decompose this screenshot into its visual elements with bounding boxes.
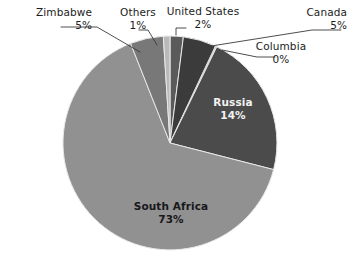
pie-label-zimbabwe: Zimbabwe 5% [14,6,92,31]
pie-label-south-africa: South Africa 73% [124,200,218,225]
pie-label-zimbabwe-percent: 5% [14,19,92,32]
pie-label-south-africa-name: South Africa [134,200,208,212]
pie-label-united-states-percent: 2% [162,18,244,31]
pie-label-columbia-percent: 0% [247,53,315,66]
pie-label-south-africa-percent: 73% [124,213,218,226]
pie-label-canada-name: Canada [306,6,347,18]
pie-label-russia: Russia 14% [196,96,270,121]
pie-label-russia-percent: 14% [196,109,270,122]
pie-label-zimbabwe-name: Zimbabwe [36,6,92,18]
pie-label-others-name: Others [120,6,156,18]
pie-label-others-percent: 1% [112,19,164,32]
pie-label-columbia: Columbia 0% [247,40,315,65]
pie-label-united-states: United States 2% [162,5,244,30]
pie-label-others: Others 1% [112,6,164,31]
pie-label-russia-name: Russia [213,96,252,108]
pie-label-united-states-name: United States [167,5,239,17]
pie-label-columbia-name: Columbia [256,40,306,52]
pie-chart-figure: Zimbabwe 5% Others 1% United States 2% C… [0,0,357,277]
pie-label-canada: Canada 5% [285,6,347,31]
pie-label-canada-percent: 5% [285,19,347,32]
